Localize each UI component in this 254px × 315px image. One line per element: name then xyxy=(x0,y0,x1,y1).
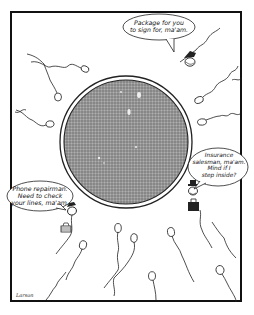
speech-bubble-insurance: Insurance salesman, ma'am. Mind if I ste… xyxy=(189,152,249,178)
sperm-insurance-salesman xyxy=(188,180,212,248)
speech-bubble-delivery: Package for you to sign for, ma'am. xyxy=(124,19,194,33)
artist-signature: Larson xyxy=(16,292,34,298)
sperm-delivery-man xyxy=(184,51,196,66)
sperm-phone-repairman xyxy=(56,202,78,254)
speech-bubble-phone-repairman: Phone repairman. Need to check your line… xyxy=(7,185,73,206)
ovum xyxy=(60,76,192,208)
